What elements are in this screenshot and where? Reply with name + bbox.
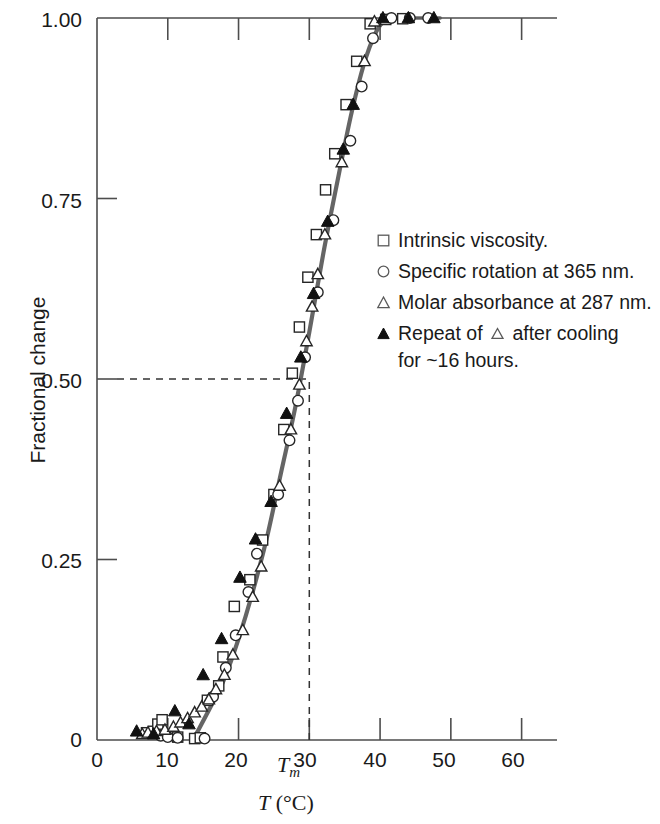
repeat-of-after-cooling-for-16-hou-point	[280, 407, 293, 418]
legend-label-repeat-before: Repeat of	[398, 322, 483, 344]
legend-item-intrinsic-viscosity: Intrinsic viscosity.	[376, 228, 648, 252]
y-tick-label-1: 1.00	[10, 8, 82, 32]
specific-rotation-at-365-nm-point	[345, 135, 356, 146]
molar-absorbance-at-287-nm-point	[255, 561, 266, 571]
intrinsic-viscosity-point	[294, 322, 304, 332]
specific-rotation-at-365-nm-point	[368, 33, 379, 44]
tm-base: T	[277, 752, 289, 777]
open-triangle-icon	[376, 290, 398, 314]
specific-rotation-at-365-nm-point	[293, 395, 304, 406]
x-axis-title: T (°C)	[258, 790, 314, 816]
y-tick-label-025: 0.25	[10, 549, 82, 573]
specific-rotation-at-365-nm-point	[199, 733, 210, 744]
legend-label-intrinsic-viscosity: Intrinsic viscosity.	[398, 228, 548, 252]
intrinsic-viscosity-point	[245, 575, 255, 585]
tm-subscript: m	[289, 764, 300, 780]
intrinsic-viscosity-point	[218, 652, 228, 662]
repeat-of-after-cooling-for-16-hou-point	[169, 705, 182, 716]
legend-label-specific-rotation: Specific rotation at 365 nm.	[398, 259, 634, 283]
open-square-icon	[376, 228, 398, 252]
x-tick-label-20: 20	[219, 748, 253, 772]
series-molar-absorbance-at-287-nm	[137, 16, 381, 739]
legend-label-repeat-line2: for ~16 hours.	[398, 348, 648, 372]
specific-rotation-at-365-nm-point	[356, 81, 367, 92]
specific-rotation-at-365-nm-point	[172, 733, 183, 744]
y-axis-title: Fractional change	[26, 270, 50, 490]
intrinsic-viscosity-point	[303, 272, 313, 282]
x-tick-label-50: 50	[427, 748, 461, 772]
axes-group	[97, 18, 557, 740]
specific-rotation-at-365-nm-point	[284, 435, 295, 446]
series-repeat-of-after-cooling-for-16-hou	[130, 11, 440, 739]
chart-figure: 1.00 0.75 0.50 0.25 0 0 10 20 30 40 50 6…	[0, 0, 660, 824]
fit-curve-group	[196, 18, 440, 734]
molar-absorbance-at-287-nm-point	[274, 480, 285, 490]
x-tick-label-10: 10	[150, 748, 184, 772]
intrinsic-viscosity-point	[229, 601, 239, 611]
molar-absorbance-at-287-nm-point	[237, 624, 248, 634]
intrinsic-viscosity-point	[157, 715, 167, 725]
intrinsic-viscosity-point	[320, 185, 330, 195]
tm-annotation: Tm	[277, 752, 300, 781]
x-tick-label-60: 60	[496, 748, 530, 772]
specific-rotation-at-365-nm-point	[252, 548, 263, 559]
plot-canvas	[0, 0, 660, 824]
y-tick-label-0: 0	[10, 728, 82, 752]
filled-triangle-icon	[376, 321, 398, 345]
repeat-of-after-cooling-for-16-hou-point	[215, 632, 228, 643]
x-tick-label-40: 40	[358, 748, 392, 772]
inline-open-triangle-icon	[490, 322, 505, 346]
intrinsic-viscosity-point	[287, 368, 297, 378]
x-axis-title-symbol: T	[258, 790, 270, 815]
molar-absorbance-at-287-nm-point	[294, 379, 305, 389]
legend-label-repeat-after: after cooling	[512, 322, 618, 344]
legend-item-specific-rotation: Specific rotation at 365 nm.	[376, 259, 648, 283]
y-tick-label-075: 0.75	[10, 189, 82, 213]
x-axis-title-unit: (°C)	[276, 790, 314, 815]
data-points-group	[130, 11, 440, 743]
legend-item-molar-absorbance: Molar absorbance at 287 nm.	[376, 290, 648, 314]
open-circle-icon	[376, 259, 398, 283]
repeat-of-after-cooling-for-16-hou-point	[197, 668, 210, 679]
legend: Intrinsic viscosity. Specific rotation a…	[376, 228, 648, 372]
legend-label-molar-absorbance: Molar absorbance at 287 nm.	[398, 290, 652, 314]
legend-item-repeat-after-cooling: Repeat of after cooling	[376, 321, 648, 346]
x-tick-label-0: 0	[80, 748, 114, 772]
